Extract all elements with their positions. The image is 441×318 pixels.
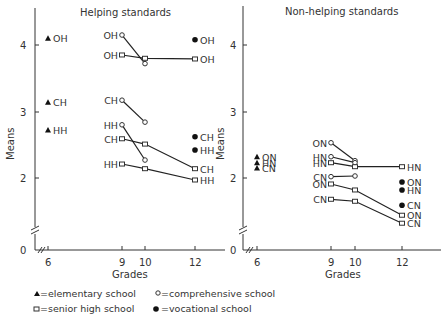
right-x-tick-10: 10 [349,257,362,268]
series-label: CN [262,163,276,174]
legend-comprehensive: =comprehensive school [161,288,275,299]
series-line [331,163,402,167]
series-line [122,100,145,122]
open-square-marker [329,182,334,186]
open-square-marker [353,188,358,192]
triangle-marker [254,165,260,171]
series-end-label: HN [407,162,421,173]
series-label: CN [313,194,327,205]
open-square-marker [400,221,405,225]
y-tick-0: 0 [20,245,26,256]
series-line [122,164,195,180]
filled-circle-marker [399,179,405,185]
series-line [331,176,355,177]
triangle-marker [45,35,51,41]
series-line [122,139,195,169]
series-label: HH [53,125,67,136]
triangle-marker [254,154,260,160]
x-tick-12: 12 [189,257,202,268]
open-circle-marker [143,120,148,125]
right-x-axis-label: Grades [325,269,361,280]
series-label: HN [407,185,421,196]
y-axis-label: Means [5,128,16,160]
y-tick-2: 2 [20,173,26,184]
open-square-marker [120,137,125,141]
open-square-marker [400,165,405,169]
open-circle-marker [329,140,334,145]
series-end-label: CN [407,218,421,229]
filled-circle-marker [192,147,198,153]
series-label: ON [312,138,327,149]
y-tick-3: 3 [20,107,26,118]
open-circle-marker [329,174,334,179]
series-label: OH [200,35,215,46]
open-square-marker [353,165,358,169]
series-line [122,125,145,160]
open-square-marker [193,178,198,182]
right-x-tick-9: 9 [328,257,334,268]
series-end-label: HH [200,175,214,186]
triangle-marker [45,99,51,105]
right-title: Non-helping standards [285,6,398,17]
legend-elementary: =elementary school [40,288,136,299]
open-square-marker [193,167,198,171]
open-square-marker [143,167,148,171]
legend-senior: =senior high school [40,303,134,314]
right-x-tick-12: 12 [396,257,409,268]
y-tick-4: 4 [20,40,26,51]
right-y-tick-0: 0 [230,245,236,256]
series-label: CH [200,132,214,143]
series-line [331,199,402,223]
filled-circle-marker [399,187,405,193]
right-y-axis-label: Means [215,128,226,160]
x-tick-9: 9 [119,257,125,268]
filled-circle-icon [153,306,159,312]
open-circle-marker [143,61,148,66]
series-label: HH [200,145,214,156]
legend-vocational: =vocational school [161,303,252,314]
open-square-marker [143,56,148,60]
series-label: CH [104,95,118,106]
open-circle-marker [120,98,125,103]
series-line [122,35,145,64]
open-square-marker [120,162,125,166]
right-y-tick-4: 4 [230,40,236,51]
filled-circle-marker [192,37,198,43]
series-label: ON [312,179,327,190]
triangle-marker [254,160,260,166]
open-circle-icon [156,291,160,295]
legend: =elementary school =comprehensive school… [34,288,275,314]
open-square-marker [329,197,334,201]
x-tick-10: 10 [139,257,152,268]
open-circle-marker [329,154,334,159]
open-square-marker [120,53,125,57]
x-tick-6: 6 [45,257,51,268]
open-circle-marker [353,174,358,179]
plot-data: OHCHHHOHCHHHOHOHCHCHHHHHOHCHHHONHNCNONHN… [45,30,422,229]
series-label: HH [104,120,118,131]
open-square-marker [329,161,334,165]
open-circle-marker [120,123,125,128]
open-square-marker [143,142,148,146]
open-square-marker [353,199,358,203]
series-label: CH [104,134,118,145]
left-title: Helping standards [80,7,171,18]
series-end-label: OH [200,54,215,65]
series-label: HH [104,159,118,170]
filled-circle-marker [399,202,405,208]
filled-circle-marker [192,134,198,140]
open-square-icon [34,307,39,311]
series-label: CH [53,97,67,108]
triangle-marker [45,127,51,132]
series-line [122,55,195,59]
series-label: OH [53,33,68,44]
x-axis-label: Grades [112,269,148,280]
open-circle-marker [120,33,125,38]
series-end-label: CH [200,164,214,175]
right-y-tick-2: 2 [230,173,236,184]
series-label: CN [407,200,421,211]
right-y-tick-3: 3 [230,107,236,118]
series-label: OH [103,30,118,41]
open-circle-marker [143,158,148,163]
series-label: HN [313,158,327,169]
